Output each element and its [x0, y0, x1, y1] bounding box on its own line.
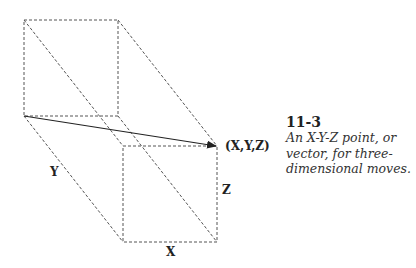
y-axis-label: Y: [50, 166, 59, 178]
back-face: [123, 146, 217, 242]
front-face: [24, 20, 118, 116]
xyz-vector-arrow: [24, 116, 216, 146]
point-label: (X,Y,Z): [225, 140, 270, 152]
x-axis-label: X: [166, 246, 175, 258]
figure-number: 11-3: [286, 114, 416, 130]
z-axis-label: Z: [222, 184, 231, 196]
caption-line-2: vector, for three-: [286, 146, 416, 162]
caption-line-1: An X-Y-Z point, or: [286, 130, 416, 146]
figure-caption: 11-3 An X-Y-Z point, or vector, for thre…: [286, 114, 416, 177]
caption-line-3: dimensional moves.: [286, 161, 416, 177]
